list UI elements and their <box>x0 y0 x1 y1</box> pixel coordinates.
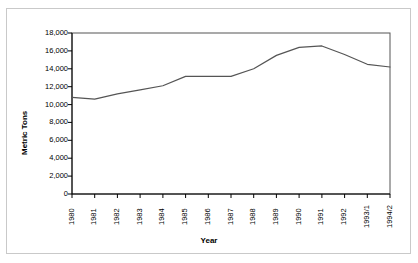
x-tick-label: 1993/1 <box>363 199 372 235</box>
x-tick-label: 1992 <box>340 199 349 235</box>
x-tick-label: 1986 <box>204 199 213 235</box>
x-tick-label: 1994/2 <box>386 199 395 235</box>
x-tick-label: 1990 <box>295 199 304 235</box>
x-tick-label: 1982 <box>113 199 122 235</box>
x-tick-label: 1981 <box>90 199 99 235</box>
x-tick-label: 1989 <box>272 199 281 235</box>
x-tick-label: 1991 <box>317 199 326 235</box>
x-tick-label: 1980 <box>68 199 77 235</box>
x-tick-label: 1984 <box>158 199 167 235</box>
x-tick-label: 1985 <box>181 199 190 235</box>
x-tick-label: 1987 <box>227 199 236 235</box>
x-axis-title: Year <box>0 236 418 245</box>
x-axis-tick-labels: 1980 1981 1982 1983 1984 1985 1986 1987 … <box>0 0 418 263</box>
x-tick-label: 1988 <box>249 199 258 235</box>
x-tick-label: 1983 <box>136 199 145 235</box>
